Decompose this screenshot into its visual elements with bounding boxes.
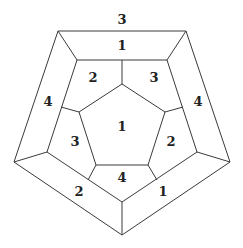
spoke-top-left: [58, 31, 77, 60]
pentagon-coloring-diagram: 3 1 4 4 2 3 1 3 2 4 2 1: [0, 0, 243, 248]
label-left-outer: 4: [43, 94, 52, 109]
label-right-outer: 4: [193, 94, 202, 109]
label-upper-right: 3: [149, 70, 158, 85]
spoke-right: [197, 152, 230, 162]
label-outer-top: 3: [117, 12, 126, 27]
label-top-face: 1: [117, 38, 126, 53]
label-lower-right: 2: [166, 134, 175, 149]
spoke-left: [14, 152, 47, 162]
label-lower-left: 3: [70, 134, 79, 149]
label-bottom-right: 1: [158, 184, 167, 199]
inner-spoke-left: [61, 107, 79, 112]
inner-spoke-bottom-left: [88, 165, 96, 180]
inner-spoke-right: [165, 107, 183, 112]
inner-spoke-bottom-right: [148, 165, 157, 180]
label-center: 1: [117, 119, 126, 134]
label-bottom-inner: 4: [117, 170, 126, 185]
spoke-top-right: [167, 31, 186, 60]
label-bottom-left: 2: [74, 184, 83, 199]
label-upper-left: 2: [88, 70, 97, 85]
